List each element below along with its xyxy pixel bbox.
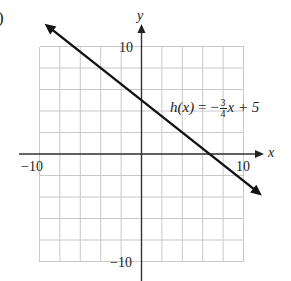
function-sign: − <box>210 99 218 115</box>
function-label: h(x) = −34x + 5 <box>170 98 259 119</box>
slope-denominator: 4 <box>220 109 227 119</box>
coordinate-plane <box>0 0 291 281</box>
y-axis <box>138 24 146 281</box>
x-axis-label: x <box>268 146 274 160</box>
function-tail: x + 5 <box>228 99 260 115</box>
y-axis-label: y <box>137 9 143 23</box>
y-tick-label-top: 10 <box>119 41 133 55</box>
part-label: ) <box>0 9 4 26</box>
function-lhs: h(x) <box>170 99 194 115</box>
x-axis-arrow-icon <box>255 150 264 158</box>
function-equals: = <box>198 99 206 115</box>
y-axis-arrow-icon <box>138 24 146 33</box>
y-tick-label-bottom: −10 <box>110 256 132 270</box>
slope-fraction: 34 <box>220 98 227 119</box>
x-tick-label-right: 10 <box>236 160 250 174</box>
x-tick-label-left: −10 <box>21 160 43 174</box>
